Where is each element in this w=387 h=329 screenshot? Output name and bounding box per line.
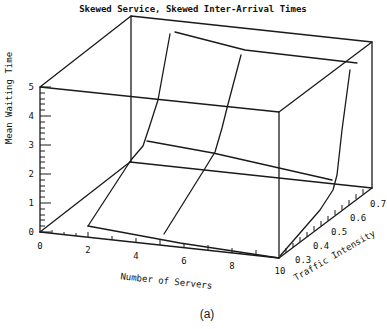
surface-plot: Skewed Service, Skewed Inter-Arrival Tim… [0,0,387,329]
z-tick-0: 0 [29,227,34,237]
x-tick-10: 10 [275,266,286,276]
y-tick-0.5: 0.5 [331,227,347,237]
line-high-intensity [175,32,357,63]
z-axis: 0 1 2 3 4 5 Mean Waiting Time [4,52,51,237]
x-tick-0: 0 [37,241,42,251]
z-axis-label: Mean Waiting Time [4,52,14,144]
x-tick-8: 8 [229,261,234,271]
z-tick-5: 5 [29,82,34,92]
y-tick-0.6: 0.6 [350,213,366,223]
z-tick-3: 3 [29,140,34,150]
y-tick-0.4: 0.4 [313,241,329,251]
z-tick-4: 4 [29,111,34,121]
curve-servers-2 [88,34,170,226]
bounding-box [40,16,372,258]
chart-title: Skewed Service, Skewed Inter-Arrival Tim… [79,4,307,14]
x-tick-4: 4 [133,251,138,261]
line-low-intensity [88,226,279,258]
surface-wireframe [88,32,357,258]
y-tick-0.7: 0.7 [370,199,386,209]
figure-caption: (a) [200,307,215,321]
x-tick-2: 2 [85,245,90,255]
z-tick-2: 2 [29,169,34,179]
curve-servers-6 [164,55,241,234]
x-tick-6: 6 [181,256,186,266]
x-axis-label: Number of Servers [120,271,213,291]
y-axis: 0.3 0.4 0.5 0.6 0.7 Traffic Intensity [286,189,386,283]
z-tick-1: 1 [29,198,34,208]
